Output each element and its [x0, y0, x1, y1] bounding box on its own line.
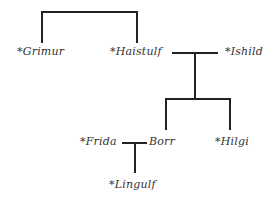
family-tree-diagram: *Grimur *Haistulf *Ishild *Frida Borr *H… [0, 0, 276, 198]
sibling-bracket-right-leg [136, 11, 138, 43]
person-frida: *Frida [80, 136, 117, 148]
children-bracket-top [165, 98, 231, 100]
person-haistulf: *Haistulf [110, 46, 162, 58]
person-lingulf: *Lingulf [109, 179, 156, 191]
sibling-bracket-left-leg [41, 11, 43, 43]
person-hilgi: *Hilgi [215, 136, 249, 148]
descent-line-haistulf-ishild [194, 52, 196, 99]
descent-line-frida-borr [134, 142, 136, 173]
sibling-bracket-top [41, 11, 138, 13]
children-bracket-right-leg [229, 98, 231, 130]
person-borr: Borr [149, 136, 175, 148]
person-grimur: *Grimur [17, 46, 64, 58]
children-bracket-left-leg [165, 98, 167, 130]
person-ishild: *Ishild [225, 46, 263, 58]
